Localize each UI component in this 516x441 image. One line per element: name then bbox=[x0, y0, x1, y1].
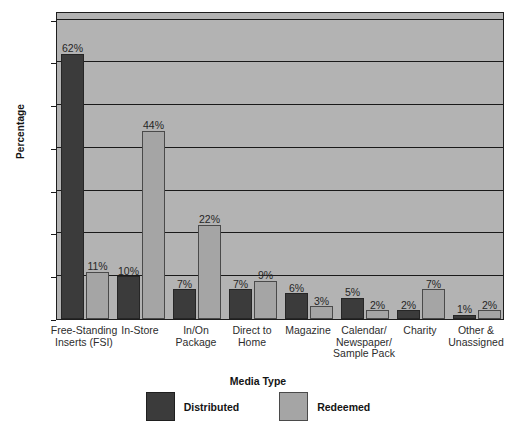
category-label-line: Sample Pack bbox=[319, 348, 409, 360]
legend-label: Distributed bbox=[184, 401, 239, 413]
x-axis-title: Media Type bbox=[0, 375, 516, 387]
bar-redeemed: 2% bbox=[478, 310, 501, 319]
category-label-line: Inserts (FSI) bbox=[39, 337, 129, 349]
y-axis-title: Percentage bbox=[15, 82, 26, 182]
bar-value-label: 2% bbox=[370, 300, 385, 311]
gridline bbox=[57, 232, 503, 233]
chart-legend: DistributedRedeemed bbox=[0, 392, 516, 421]
plot-inner: 62%11%10%44%7%22%7%9%6%3%5%2%2%7%1%2% bbox=[57, 13, 503, 319]
gridline bbox=[57, 19, 503, 20]
bar-redeemed: 11% bbox=[86, 272, 109, 319]
y-axis-tick-mark bbox=[51, 320, 56, 321]
gridline bbox=[57, 147, 503, 148]
bar-value-label: 2% bbox=[482, 300, 497, 311]
bar-value-label: 3% bbox=[314, 296, 329, 307]
bar-redeemed: 7% bbox=[422, 289, 445, 319]
bar-redeemed: 2% bbox=[366, 310, 389, 319]
category-label-line: Home bbox=[207, 337, 297, 349]
legend-label: Redeemed bbox=[317, 401, 370, 413]
bar-value-label: 2% bbox=[401, 300, 416, 311]
bar-distributed: 1% bbox=[453, 315, 476, 319]
bar-value-label: 5% bbox=[345, 287, 360, 298]
bar-distributed: 7% bbox=[229, 289, 252, 319]
bar-value-label: 7% bbox=[177, 279, 192, 290]
legend-item[interactable]: Distributed bbox=[146, 392, 239, 421]
bar-distributed: 2% bbox=[397, 310, 420, 319]
legend-item[interactable]: Redeemed bbox=[279, 392, 370, 421]
x-axis-category-label: Other &Unassigned bbox=[431, 325, 516, 348]
bar-value-label: 44% bbox=[143, 120, 164, 131]
bar-redeemed: 9% bbox=[254, 281, 277, 320]
gridline bbox=[57, 190, 503, 191]
bar-value-label: 10% bbox=[118, 266, 139, 277]
category-label-line: Other & bbox=[431, 325, 516, 337]
bar-chart: Percentage 010203040506070 62%11%10%44%7… bbox=[0, 0, 516, 441]
bar-distributed: 5% bbox=[341, 298, 364, 319]
bar-distributed: 10% bbox=[117, 276, 140, 319]
bar-value-label: 6% bbox=[289, 283, 304, 294]
bar-value-label: 62% bbox=[62, 43, 83, 54]
bar-distributed: 62% bbox=[61, 54, 84, 319]
bar-value-label: 7% bbox=[426, 279, 441, 290]
bar-value-label: 1% bbox=[457, 304, 472, 315]
gridline bbox=[57, 61, 503, 62]
gridline bbox=[57, 104, 503, 105]
category-label-line: Unassigned bbox=[431, 337, 516, 349]
bar-distributed: 7% bbox=[173, 289, 196, 319]
bar-redeemed: 44% bbox=[142, 131, 165, 319]
bar-redeemed: 3% bbox=[310, 306, 333, 319]
bar-distributed: 6% bbox=[285, 293, 308, 319]
legend-swatch-redeemed bbox=[279, 392, 308, 421]
legend-swatch-distributed bbox=[146, 392, 175, 421]
bar-value-label: 22% bbox=[199, 214, 220, 225]
plot-area: 62%11%10%44%7%22%7%9%6%3%5%2%2%7%1%2% bbox=[56, 12, 504, 320]
bar-redeemed: 22% bbox=[198, 225, 221, 319]
bar-value-label: 9% bbox=[258, 270, 273, 281]
bar-value-label: 7% bbox=[233, 279, 248, 290]
bar-value-label: 11% bbox=[87, 261, 107, 272]
